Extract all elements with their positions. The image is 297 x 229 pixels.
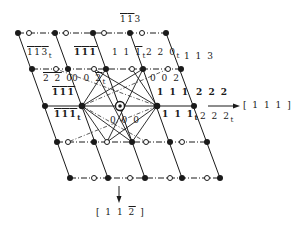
label-111: 1 1 1 [157, 88, 190, 97]
label-111bar-a: 111 [74, 48, 97, 57]
label-222t: 2 2 2t [200, 112, 233, 121]
origin-node [116, 102, 125, 111]
label-113: 1 1 3 [184, 52, 214, 61]
axis-label-111: [ 1 1 1 ] [243, 101, 292, 110]
label-113bar-top: 113 [120, 15, 142, 24]
label-222: 2 2 2 [196, 88, 229, 97]
label-220t: 2 2 0t [146, 48, 179, 57]
label-111t-a: 1 1 1t [112, 48, 145, 57]
label-111bar-b: 111 [52, 88, 75, 97]
label-111t: 1 1 1t [162, 110, 198, 119]
label-002t: 0 0 2t [72, 74, 105, 83]
label-111bar-t: 111t [54, 110, 81, 119]
label-000: 0 0 0 [110, 116, 140, 125]
reciprocal-lattice-diagram [0, 0, 297, 229]
arrow-111 [208, 104, 240, 109]
label-220bar: 2 2 0 [43, 74, 73, 83]
arrow-112bar [117, 186, 122, 203]
axis-label-112bar: [ 1 1 2 ] [96, 208, 145, 217]
label-002: 0 0 2 [150, 74, 180, 83]
label-113t-bar: 113t [27, 48, 52, 57]
